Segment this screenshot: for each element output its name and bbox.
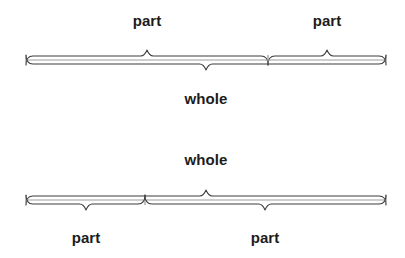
label-bottom-right-part: part <box>251 229 280 247</box>
diagram-canvas: part part whole whole <box>0 0 405 258</box>
brace-top-whole <box>26 190 386 205</box>
brace-bottom-right-part <box>145 195 386 210</box>
diagram-bottom-graphics <box>0 0 405 258</box>
brace-bottom-left-part <box>26 195 145 210</box>
label-bottom-left-part: part <box>72 229 101 247</box>
top-braces-row-2 <box>26 190 386 205</box>
bottom-braces-row-2 <box>26 195 386 210</box>
